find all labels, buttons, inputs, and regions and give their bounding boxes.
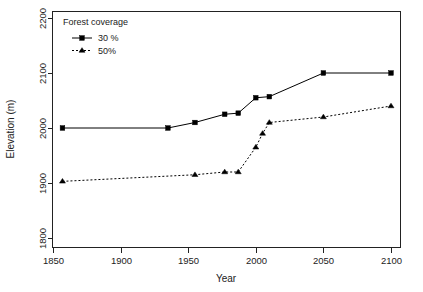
data-point-30--7 — [321, 71, 326, 76]
y-tick-label-1800: 1800 — [37, 228, 48, 249]
x-tick-label-1850: 1850 — [43, 255, 64, 266]
y-tick-label-2000: 2000 — [37, 118, 48, 139]
legend-entries: 30 %50% — [72, 33, 119, 56]
data-point-30--5 — [254, 95, 259, 100]
x-tick-label-2050: 2050 — [313, 255, 334, 266]
series-line-50- — [62, 106, 391, 181]
legend-entry-50-: 50% — [72, 46, 116, 56]
legend-label-0: 30 % — [98, 33, 119, 43]
legend-label-1: 50% — [98, 46, 116, 56]
data-point-30--6 — [267, 94, 272, 99]
series-lines-group — [62, 73, 391, 181]
data-point-30--4 — [236, 111, 241, 116]
y-axis-tick-labels: 18001900200021002200 — [37, 8, 48, 249]
y-axis-title: Elevation (m) — [5, 100, 16, 159]
data-point-50--3 — [235, 169, 241, 174]
data-point-30--3 — [222, 112, 227, 117]
chart-figure: 185019001950200020502100 180019002000210… — [0, 0, 423, 292]
legend-marker-1 — [79, 48, 85, 53]
x-axis-ticks — [54, 248, 392, 253]
y-axis-ticks — [48, 19, 53, 239]
data-point-30--2 — [193, 120, 198, 125]
data-point-50--5 — [260, 131, 266, 136]
series-markers-group — [59, 71, 394, 183]
y-tick-label-1900: 1900 — [37, 173, 48, 194]
legend-entry-30-: 30 % — [72, 33, 119, 43]
x-tick-label-2000: 2000 — [246, 255, 267, 266]
x-tick-label-1950: 1950 — [178, 255, 199, 266]
data-point-50--2 — [222, 169, 228, 174]
data-point-50--7 — [320, 114, 326, 119]
data-point-30--1 — [166, 126, 171, 131]
series-line-30- — [62, 73, 391, 128]
legend-marker-0 — [80, 36, 85, 41]
data-point-50--0 — [59, 178, 65, 183]
x-tick-label-2100: 2100 — [381, 255, 402, 266]
x-axis-tick-labels: 185019001950200020502100 — [43, 255, 402, 266]
data-point-30--0 — [60, 126, 65, 131]
legend: Forest coverage 30 %50% — [63, 17, 128, 56]
x-axis-title: Year — [216, 273, 237, 284]
data-point-50--8 — [388, 103, 394, 108]
x-tick-label-1900: 1900 — [111, 255, 132, 266]
data-point-30--8 — [389, 71, 394, 76]
y-tick-label-2100: 2100 — [37, 63, 48, 84]
line-chart-canvas: 185019001950200020502100 180019002000210… — [0, 0, 423, 292]
y-tick-label-2200: 2200 — [37, 8, 48, 29]
data-point-50--1 — [192, 172, 198, 177]
data-point-50--4 — [253, 144, 259, 149]
legend-title: Forest coverage — [63, 17, 128, 27]
